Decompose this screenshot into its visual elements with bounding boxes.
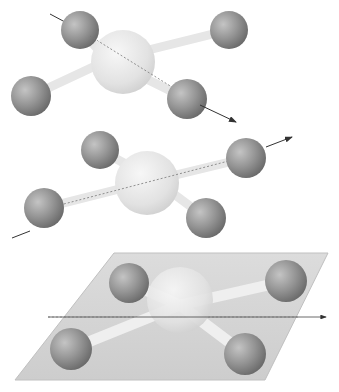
- c2-axis-top-arrow: [200, 105, 236, 122]
- molecule-middle: [12, 131, 292, 238]
- ligand-atom: [224, 333, 266, 375]
- ligand-atom: [167, 79, 207, 119]
- molecule-bottom: [15, 253, 328, 380]
- c2-axis-middle-arrow: [266, 137, 292, 147]
- ligand-atom: [265, 260, 307, 302]
- ligand-atom: [61, 11, 99, 49]
- molecule-top: [11, 11, 248, 122]
- ligand-atom: [186, 198, 226, 238]
- central-atom: [91, 30, 155, 94]
- ligand-atom: [50, 328, 92, 370]
- ligand-atom: [226, 138, 266, 178]
- central-atom: [147, 267, 213, 333]
- ligand-atom: [109, 263, 149, 303]
- central-atom: [115, 151, 179, 215]
- ligand-atom: [24, 188, 64, 228]
- ligand-atom: [11, 76, 51, 116]
- c2-axis-middle-tail: [12, 231, 30, 238]
- ligand-atom: [81, 131, 119, 169]
- molecular-symmetry-diagram: [0, 0, 339, 392]
- ligand-atom: [210, 11, 248, 49]
